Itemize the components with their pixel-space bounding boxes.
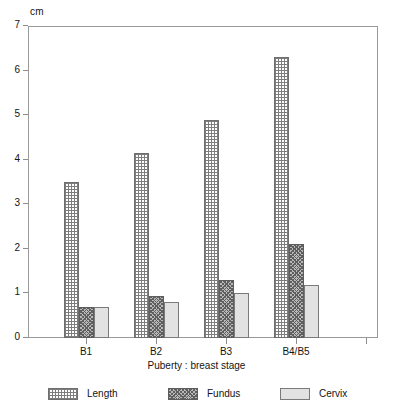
y-tick-label: 4	[14, 153, 20, 164]
bar-fundus-b3	[219, 280, 234, 338]
legend-item-fundus: Fundus	[168, 386, 240, 402]
bar-length-b2	[134, 153, 149, 338]
bars-layer	[28, 26, 378, 338]
x-tick-label-b4-b5: B4/B5	[282, 346, 309, 358]
bar-fundus-b4-b5	[289, 244, 304, 338]
legend-label-fundus: Fundus	[207, 388, 240, 400]
legend-item-cervix: Cervix	[280, 386, 347, 402]
chart-legend: LengthFundusCervix	[0, 386, 393, 404]
x-tick-mark	[86, 338, 87, 344]
x-axis-title: Puberty : breast stage	[0, 360, 393, 372]
bar-length-b3	[204, 120, 219, 338]
bar-fundus-b1	[79, 307, 94, 338]
x-tick-label-b1: B1	[80, 346, 92, 358]
bar-chart: cm 01234567 B1B2B3B4/B5 Puberty : breast…	[0, 0, 393, 414]
legend-swatch-cervix	[280, 388, 310, 400]
y-tick-label: 6	[14, 64, 20, 75]
x-tick-label-b2: B2	[150, 346, 162, 358]
bar-cervix-b3	[234, 293, 249, 338]
bar-length-b1	[64, 182, 79, 338]
legend-swatch-length	[48, 388, 78, 400]
y-tick-label: 1	[14, 286, 20, 297]
y-tick-label: 3	[14, 197, 20, 208]
legend-item-length: Length	[48, 386, 118, 402]
legend-swatch-fundus	[168, 388, 198, 400]
bar-cervix-b1	[94, 307, 109, 338]
x-tick-mark	[226, 338, 227, 344]
x-tick-label-b3: B3	[220, 346, 232, 358]
y-axis-unit-label: cm	[30, 6, 44, 17]
bar-length-b4-b5	[274, 57, 289, 338]
legend-label-cervix: Cervix	[319, 388, 347, 400]
bar-fundus-b2	[149, 296, 164, 338]
bar-cervix-b2	[164, 302, 179, 338]
x-tick-mark	[156, 338, 157, 344]
bar-cervix-b4-b5	[304, 285, 319, 338]
y-tick-label: 5	[14, 108, 20, 119]
top-edge-artifact	[0, 0, 393, 2]
y-tick-label: 7	[14, 19, 20, 30]
legend-label-length: Length	[87, 388, 118, 400]
y-tick-label: 2	[14, 242, 20, 253]
x-tick-mark	[296, 338, 297, 344]
x-tick-mark-trailing	[366, 338, 367, 344]
y-tick-label: 0	[14, 331, 20, 342]
